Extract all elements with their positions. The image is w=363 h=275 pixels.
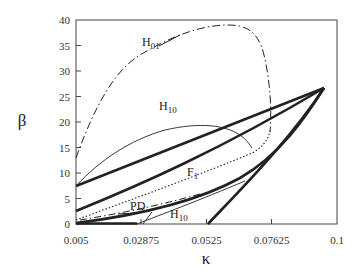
- curves: [76, 25, 324, 224]
- x-axis: [141, 219, 272, 224]
- y-tick-0: 0: [65, 218, 71, 230]
- y-tick-5: 5: [65, 193, 71, 205]
- y-axis: [76, 46, 81, 225]
- x-tick-labels: 0.005 0.02875 0.0525 0.07625 0.1: [64, 234, 344, 246]
- fourth-thick-boundary: [208, 88, 324, 224]
- y-tick-20: 20: [59, 116, 71, 128]
- x-tick-0.07625: 0.07625: [254, 234, 290, 246]
- x-tick-0.0525: 0.0525: [191, 234, 222, 246]
- x-tick-0.02875: 0.02875: [123, 234, 159, 246]
- y-tick-10: 10: [59, 167, 71, 179]
- x-tick-0.1: 0.1: [330, 234, 344, 246]
- y-tick-labels: 0 5 10 15 20 25 30 35 40: [59, 14, 71, 230]
- y-tick-15: 15: [59, 142, 71, 154]
- h01-curve: [76, 25, 271, 158]
- y-tick-25: 25: [59, 91, 71, 103]
- second-thick-boundary: [76, 88, 324, 211]
- label-h01: H01: [142, 35, 160, 51]
- label-h10-upper: H10: [159, 99, 177, 115]
- h01-leader: [159, 35, 180, 46]
- y-tick-30: 30: [59, 65, 71, 77]
- h10-lower-leader: [143, 212, 152, 224]
- x-axis-label: κ: [202, 249, 211, 268]
- curve-labels: H01 H10 F1 PD H10: [130, 35, 198, 223]
- y-tick-40: 40: [59, 14, 71, 26]
- label-f1: F1: [187, 165, 198, 181]
- bifurcation-chart: 0 5 10 15 20 25 30 35 40 0.005 0.02875 0…: [0, 0, 363, 275]
- y-axis-label: β: [18, 111, 27, 130]
- y-tick-35: 35: [59, 40, 71, 52]
- x-tick-0.005: 0.005: [64, 234, 89, 246]
- label-h10-lower: H10: [170, 207, 188, 223]
- label-pd: PD: [130, 199, 146, 213]
